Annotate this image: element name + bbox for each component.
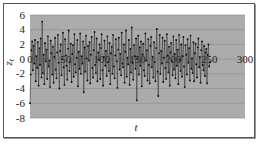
data-point — [161, 63, 163, 65]
data-point — [86, 80, 88, 82]
data-point — [167, 71, 169, 73]
data-point — [121, 32, 123, 34]
data-point — [142, 43, 144, 45]
data-point — [103, 56, 105, 58]
data-point — [190, 35, 192, 37]
data-point — [74, 63, 76, 65]
data-point — [43, 83, 45, 85]
data-point — [140, 41, 142, 43]
data-point — [89, 41, 91, 43]
data-point — [132, 62, 134, 64]
data-point — [108, 70, 110, 72]
data-point — [31, 41, 33, 43]
data-point — [51, 52, 53, 54]
data-point — [125, 30, 127, 32]
data-point — [83, 91, 85, 93]
data-point — [124, 82, 126, 84]
data-point — [56, 52, 58, 54]
data-point — [104, 40, 106, 42]
data-point — [53, 82, 55, 84]
data-point — [30, 74, 32, 76]
data-point — [51, 74, 53, 76]
data-point — [50, 40, 52, 42]
data-point — [166, 33, 168, 35]
data-point — [119, 68, 121, 70]
data-point — [71, 53, 73, 55]
data-point — [182, 36, 184, 38]
y-tick-label: 2 — [20, 38, 26, 50]
data-point — [152, 77, 154, 79]
data-point — [49, 86, 51, 88]
data-point — [107, 61, 109, 63]
data-point — [52, 46, 54, 48]
data-point — [91, 36, 93, 38]
data-point — [206, 82, 208, 84]
data-point — [129, 84, 131, 86]
data-point — [38, 85, 40, 87]
data-point — [164, 40, 166, 42]
data-point — [169, 85, 171, 87]
data-point — [60, 43, 62, 45]
data-point — [131, 27, 133, 29]
data-point — [115, 38, 117, 40]
data-point — [122, 63, 124, 65]
data-point — [80, 73, 82, 75]
data-point — [205, 52, 207, 54]
y-tick-label: -4 — [16, 82, 26, 94]
data-point — [118, 37, 120, 39]
data-point — [41, 77, 43, 79]
data-point — [138, 74, 140, 76]
data-point — [193, 80, 195, 82]
y-axis-label: zt — [2, 58, 16, 66]
data-point — [202, 69, 204, 71]
data-point — [73, 76, 75, 78]
data-point — [143, 69, 145, 71]
data-point — [87, 45, 89, 47]
data-point — [111, 46, 113, 48]
data-point — [180, 43, 182, 45]
data-point — [84, 46, 86, 48]
data-point — [33, 45, 35, 47]
data-point — [37, 41, 39, 43]
y-tick-label: 4 — [20, 23, 26, 35]
y-tick-label: -8 — [16, 112, 26, 124]
data-point — [110, 52, 112, 54]
data-point — [139, 65, 141, 67]
y-tick-label: -6 — [16, 97, 26, 109]
data-point — [112, 34, 114, 36]
data-point — [196, 77, 198, 79]
data-point — [70, 43, 72, 45]
data-point — [202, 64, 204, 66]
data-point — [76, 57, 78, 59]
data-point — [177, 49, 179, 51]
data-point — [147, 80, 149, 82]
data-point — [55, 68, 57, 70]
data-point — [188, 47, 190, 49]
data-point — [183, 66, 185, 68]
data-point — [30, 49, 32, 51]
data-point — [124, 51, 126, 53]
data-point — [102, 85, 104, 87]
data-point — [172, 74, 174, 76]
data-point — [46, 49, 48, 51]
data-point — [48, 66, 50, 68]
data-point — [100, 47, 102, 49]
data-point — [154, 61, 156, 63]
data-point — [77, 85, 79, 87]
data-point — [153, 41, 155, 43]
data-point — [185, 44, 187, 46]
data-point — [81, 63, 83, 65]
data-point — [141, 85, 143, 87]
data-point — [111, 73, 113, 75]
data-point — [200, 82, 202, 84]
data-point — [93, 49, 95, 51]
data-point — [53, 56, 55, 58]
data-point — [46, 78, 48, 80]
data-point — [71, 81, 73, 83]
data-point — [58, 88, 60, 90]
data-point — [177, 83, 179, 85]
data-point — [47, 35, 49, 37]
data-point — [197, 46, 199, 48]
data-point — [95, 72, 97, 74]
data-point — [204, 75, 206, 77]
